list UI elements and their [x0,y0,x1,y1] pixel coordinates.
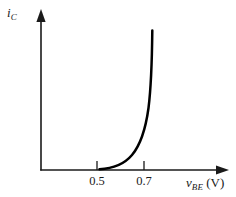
x-axis-label-unit: (V) [206,175,224,190]
y-axis-label-subscript: C [11,12,17,22]
x-axis-label: vBE(V) [186,176,224,189]
x-tick-label-1: 0.7 [129,175,159,188]
exponential-curve [100,31,153,170]
figure-container: iC vBE(V) 0.5 0.7 [0,0,236,197]
y-axis-label: iC [7,6,17,19]
x-tick-label-0: 0.5 [82,175,112,188]
x-axis-arrowhead [216,165,229,174]
x-axis-label-subscript: BE [192,182,203,192]
plot-canvas [0,0,236,197]
y-axis-arrowhead [36,9,45,22]
x-axis-label-variable: v [186,175,192,190]
